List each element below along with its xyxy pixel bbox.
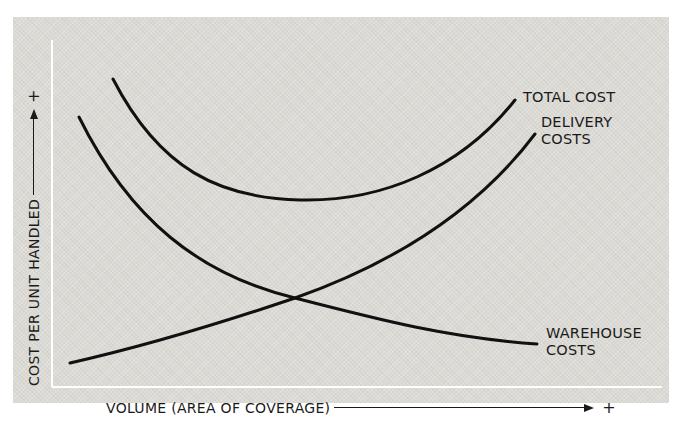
delivery-costs-label-line1: DELIVERY [541, 114, 612, 131]
x-axis-label: VOLUME (AREA OF COVERAGE) + [106, 398, 616, 417]
chart-plot-area [0, 0, 699, 440]
x-axis-arrow-line [334, 407, 584, 409]
y-axis-arrow-icon [30, 109, 38, 119]
y-axis-label: COST PER UNIT HANDLED + [24, 89, 43, 386]
x-axis-arrow-icon [584, 404, 594, 412]
warehouse-costs-label-line2: COSTS [546, 342, 596, 359]
warehouse-costs-curve [79, 117, 537, 344]
y-axis-title: COST PER UNIT HANDLED [26, 199, 42, 386]
x-axis-plus: + [602, 398, 616, 417]
x-axis-title: VOLUME (AREA OF COVERAGE) [106, 400, 330, 416]
total-cost-label: TOTAL COST [523, 89, 615, 106]
y-axis-arrow-line [33, 119, 35, 195]
warehouse-costs-label-line1: WAREHOUSE [546, 325, 642, 342]
y-axis-plus: + [24, 89, 43, 103]
total-cost-curve [113, 79, 515, 200]
delivery-costs-label-line2: COSTS [541, 131, 591, 148]
delivery-costs-curve [70, 134, 535, 363]
